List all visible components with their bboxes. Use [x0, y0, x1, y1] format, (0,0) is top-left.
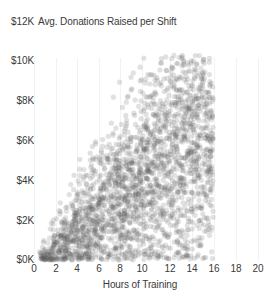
x-tick-label: 4 — [74, 263, 79, 274]
y-tick-label: $8K — [0, 95, 34, 106]
x-tick-label: 18 — [231, 263, 242, 274]
scatter-chart: $12K$10K$8K$6K$4K$2K$0K Avg. Donations R… — [0, 0, 280, 298]
x-tick-label: 6 — [96, 263, 101, 274]
scatter-point-cloud — [0, 0, 280, 298]
y-tick-label: $6K — [0, 135, 34, 146]
x-tick-label: 0 — [31, 263, 36, 274]
x-axis-label: Hours of Training — [0, 279, 280, 290]
y-tick-label: $12K — [0, 16, 34, 27]
chart-title: Avg. Donations Raised per Shift — [38, 16, 176, 27]
y-axis-ticks: $12K$10K$8K$6K$4K$2K$0K — [0, 0, 34, 298]
y-tick-label: $10K — [0, 55, 34, 66]
y-tick-label: $4K — [0, 175, 34, 186]
x-tick-label: 20 — [253, 263, 264, 274]
x-axis-ticks: 02468101214161820 — [0, 263, 280, 277]
x-tick-label: 16 — [209, 263, 220, 274]
x-tick-label: 8 — [117, 263, 122, 274]
x-tick-label: 14 — [187, 263, 198, 274]
x-tick-label: 12 — [165, 263, 176, 274]
x-tick-label: 2 — [53, 263, 58, 274]
plot-area — [0, 0, 280, 298]
x-tick-label: 10 — [137, 263, 148, 274]
y-tick-label: $2K — [0, 215, 34, 226]
